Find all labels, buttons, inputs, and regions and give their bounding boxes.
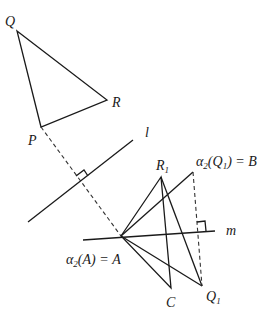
triangle-pqr (17, 31, 107, 127)
label-b: α2(Q1) = B (196, 154, 257, 171)
label-l: l (145, 125, 149, 140)
label-r1: R1 (155, 158, 169, 175)
line-m (83, 231, 215, 240)
label-a: α2(A) = A (66, 252, 121, 269)
label-c: C (166, 295, 176, 310)
label-q1: Q1 (206, 289, 221, 306)
geometry-diagram: Q R P l m R1 α2(Q1) = B α2(A) = A C Q1 (0, 0, 266, 324)
label-q: Q (5, 14, 15, 29)
right-angle-marker-l (76, 170, 88, 176)
line-l (28, 140, 133, 222)
label-r: R (111, 95, 121, 110)
triangle-a-r1-c (121, 177, 171, 288)
label-m: m (226, 223, 236, 238)
segment-r1-q1 (161, 177, 202, 286)
dashed-line-p-to-a (41, 127, 121, 236)
segment-a-b (121, 172, 193, 236)
label-p: P (27, 133, 37, 148)
right-angle-marker-m (197, 221, 206, 231)
dashed-line-b-to-q1 (193, 172, 202, 286)
